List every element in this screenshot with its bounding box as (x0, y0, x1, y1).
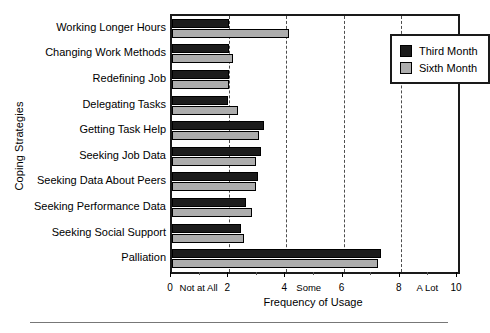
legend-swatch-sixth-month-icon (400, 62, 412, 74)
legend-label-third-month: Third Month (419, 45, 478, 57)
category-label: Changing Work Methods (18, 46, 166, 58)
category-label: Redefining Job (18, 72, 166, 84)
x-tick-word-label: Some (296, 282, 321, 293)
x-tick (342, 272, 343, 277)
bar-sixth-month (172, 29, 289, 38)
bar-third-month (172, 147, 261, 156)
x-tick (456, 272, 457, 277)
x-tick-label: 6 (339, 282, 345, 293)
x-tick (284, 272, 285, 277)
x-tick (399, 272, 400, 277)
x-tick-minor (199, 272, 200, 275)
x-tick-word-label: Not at All (180, 282, 218, 293)
bar-group (172, 224, 458, 244)
bar-third-month (172, 19, 229, 28)
bar-sixth-month (172, 106, 238, 115)
bar-sixth-month (172, 182, 256, 191)
x-tick-label: 8 (396, 282, 402, 293)
legend-item: Third Month (400, 42, 478, 59)
bar-sixth-month (172, 259, 378, 268)
footer-rule (30, 322, 448, 323)
x-axis-tick-labels: 0246810Not at AllSomeA Lot (100, 282, 476, 296)
x-tick-minor (256, 272, 257, 275)
bar-group (172, 147, 458, 167)
category-label: Seeking Performance Data (18, 200, 166, 212)
x-tick-label: 0 (167, 282, 173, 293)
bar-group (172, 198, 458, 218)
bar-sixth-month (172, 157, 256, 166)
x-tick-label: 10 (450, 282, 461, 293)
x-tick-label: 4 (282, 282, 288, 293)
bar-third-month (172, 172, 258, 181)
plot-area: Third Month Sixth Month (170, 14, 460, 274)
bar-third-month (172, 70, 229, 79)
bar-group (172, 249, 458, 269)
x-tick-word-label: A Lot (417, 282, 439, 293)
x-tick (170, 272, 171, 277)
category-labels: Working Longer HoursChanging Work Method… (18, 14, 166, 270)
bar-third-month (172, 198, 246, 207)
x-axis-ticks (170, 272, 456, 282)
legend-swatch-third-month-icon (400, 45, 412, 57)
bar-third-month (172, 44, 229, 53)
bar-group (172, 121, 458, 141)
bar-group (172, 172, 458, 192)
bar-sixth-month (172, 80, 229, 89)
bar-group (172, 96, 458, 116)
x-tick-label: 2 (224, 282, 230, 293)
category-label: Palliation (18, 251, 166, 263)
category-label: Seeking Data About Peers (18, 174, 166, 186)
category-label: Delegating Tasks (18, 98, 166, 110)
bar-sixth-month (172, 54, 233, 63)
x-tick-minor (427, 272, 428, 275)
bar-third-month (172, 96, 228, 105)
bar-third-month (172, 249, 381, 258)
category-label: Seeking Job Data (18, 149, 166, 161)
bar-sixth-month (172, 234, 244, 243)
x-tick (227, 272, 228, 277)
legend-label-sixth-month: Sixth Month (419, 62, 477, 74)
chart-legend: Third Month Sixth Month (390, 34, 490, 84)
category-label: Getting Task Help (18, 123, 166, 135)
x-tick-minor (370, 272, 371, 275)
x-axis-title: Frequency of Usage (170, 296, 456, 308)
bar-third-month (172, 121, 264, 130)
category-label: Working Longer Hours (18, 21, 166, 33)
bar-sixth-month (172, 208, 252, 217)
legend-item: Sixth Month (400, 59, 478, 76)
bar-sixth-month (172, 131, 259, 140)
bar-third-month (172, 224, 241, 233)
category-label: Seeking Social Support (18, 226, 166, 238)
x-tick-minor (313, 272, 314, 275)
